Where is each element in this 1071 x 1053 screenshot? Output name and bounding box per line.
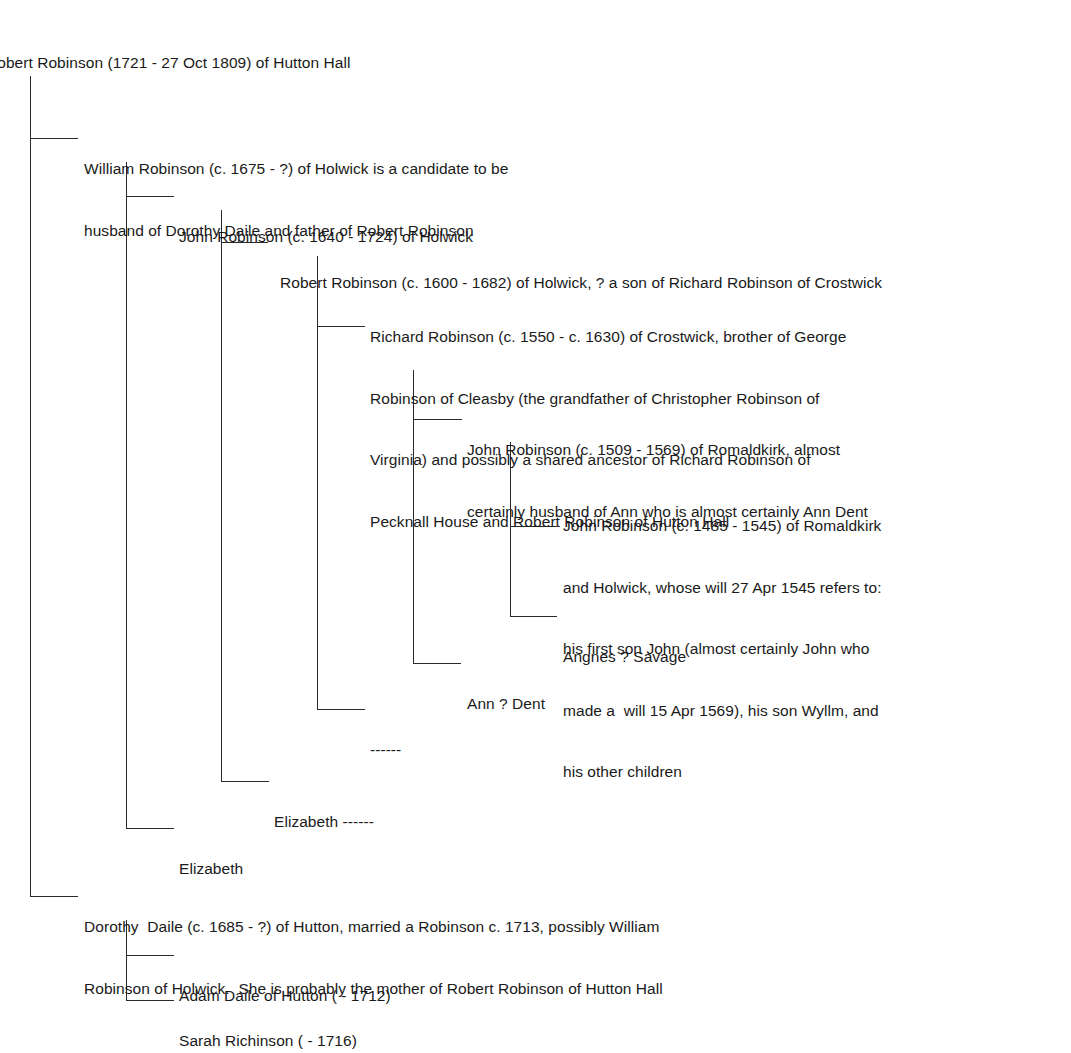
connector-unknown-wife	[317, 709, 365, 710]
person-line: John Robinson (c. 1509 - 1569) of Romald…	[467, 440, 868, 461]
person-line: Ann ? Dent	[467, 694, 545, 715]
connector-root-vertical	[30, 76, 31, 897]
person-ann-dent: Ann ? Dent	[467, 653, 545, 735]
connector-william	[30, 138, 78, 139]
person-line: and Holwick, whose will 27 Apr 1545 refe…	[563, 578, 881, 599]
connector-elizabeth-1	[126, 828, 174, 829]
person-line: Dorothy Daile (c. 1685 - ?) of Hutton, m…	[84, 917, 663, 938]
person-line: Richard Robinson (c. 1550 - c. 1630) of …	[370, 327, 846, 348]
connector-ann-dent	[413, 663, 461, 664]
person-line: Sarah Richinson ( - 1716)	[179, 1031, 357, 1052]
connector-dorothy	[30, 896, 78, 897]
connector-angnes	[510, 616, 557, 617]
root-person: Robert Robinson (1721 - 27 Oct 1809) of …	[0, 53, 350, 74]
connector-john1640-vertical	[221, 210, 222, 782]
person-line: his other children	[563, 762, 881, 783]
person-angnes-savage: Angnes ? Savage	[563, 606, 686, 688]
connector-elizabeth-2	[221, 781, 269, 782]
person-line: Elizabeth ------	[274, 812, 374, 833]
person-line: Angnes ? Savage	[563, 647, 686, 668]
person-line: made a will 15 Apr 1569), his son Wyllm,…	[563, 701, 881, 722]
connector-william-vertical	[126, 162, 127, 829]
person-line: William Robinson (c. 1675 - ?) of Holwic…	[84, 159, 508, 180]
person-elizabeth-2: Elizabeth ------	[274, 771, 374, 853]
person-line: ------	[370, 740, 401, 761]
person-line: John Robinson (c. 1485 - 1545) of Romald…	[563, 516, 881, 537]
connector-robert1600-vertical	[317, 256, 318, 710]
connector-richard	[317, 326, 365, 327]
person-sarah-richinson: Sarah Richinson ( - 1716)	[179, 990, 357, 1053]
person-unknown-wife: ------	[370, 699, 401, 781]
